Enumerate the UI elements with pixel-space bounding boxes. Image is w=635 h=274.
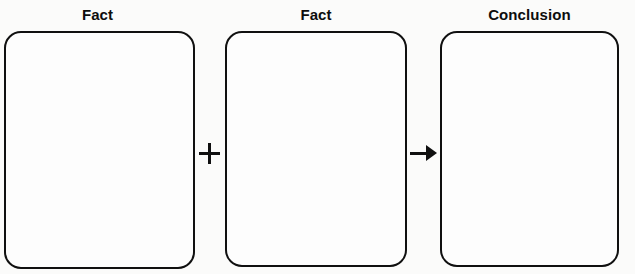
plus-icon-vertical-bar [208,143,211,164]
diagram-canvas: Fact Fact Conclusion [0,0,635,274]
arrow-right-icon-head [426,145,437,161]
plus-icon [199,143,220,164]
column-label-fact-2: Fact [225,5,407,24]
fact-box-1[interactable] [4,31,195,269]
column-label-conclusion: Conclusion [440,5,619,24]
conclusion-box[interactable] [440,31,619,267]
arrow-right-icon [410,143,437,164]
column-label-fact-1: Fact [0,5,195,24]
fact-box-2[interactable] [225,31,407,267]
